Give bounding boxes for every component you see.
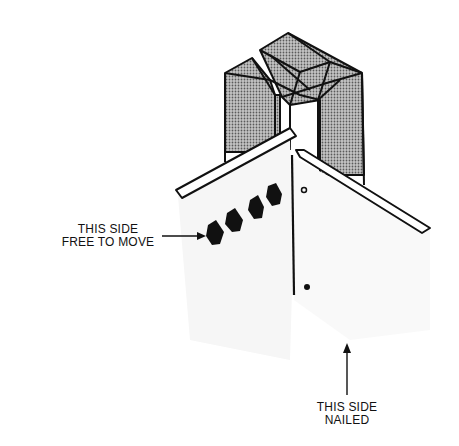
label-nailed-side-line2: NAILED (305, 414, 389, 427)
label-free-side: THIS SIDE FREE TO MOVE (58, 223, 158, 249)
drywall-panel-left (176, 128, 296, 360)
label-nailed-side: THIS SIDE NAILED (305, 401, 389, 427)
drywall-panel-right (292, 150, 430, 340)
callout-arrow-nailed (343, 343, 351, 395)
nail-head-bottom (304, 284, 310, 290)
diagram-canvas: THIS SIDE FREE TO MOVE THIS SIDE NAILED (0, 0, 459, 446)
label-free-side-line2: FREE TO MOVE (58, 236, 158, 249)
